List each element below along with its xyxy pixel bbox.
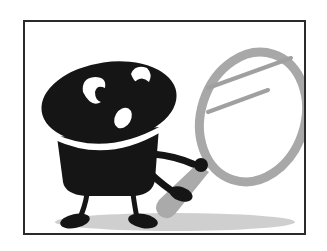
magnifier-character-illustration <box>25 22 306 235</box>
upper-hand <box>194 158 208 172</box>
illustration-frame: Black cartoon creature peering through a… <box>23 20 306 235</box>
upper-arm <box>153 154 193 164</box>
ground-shadow <box>55 213 295 231</box>
